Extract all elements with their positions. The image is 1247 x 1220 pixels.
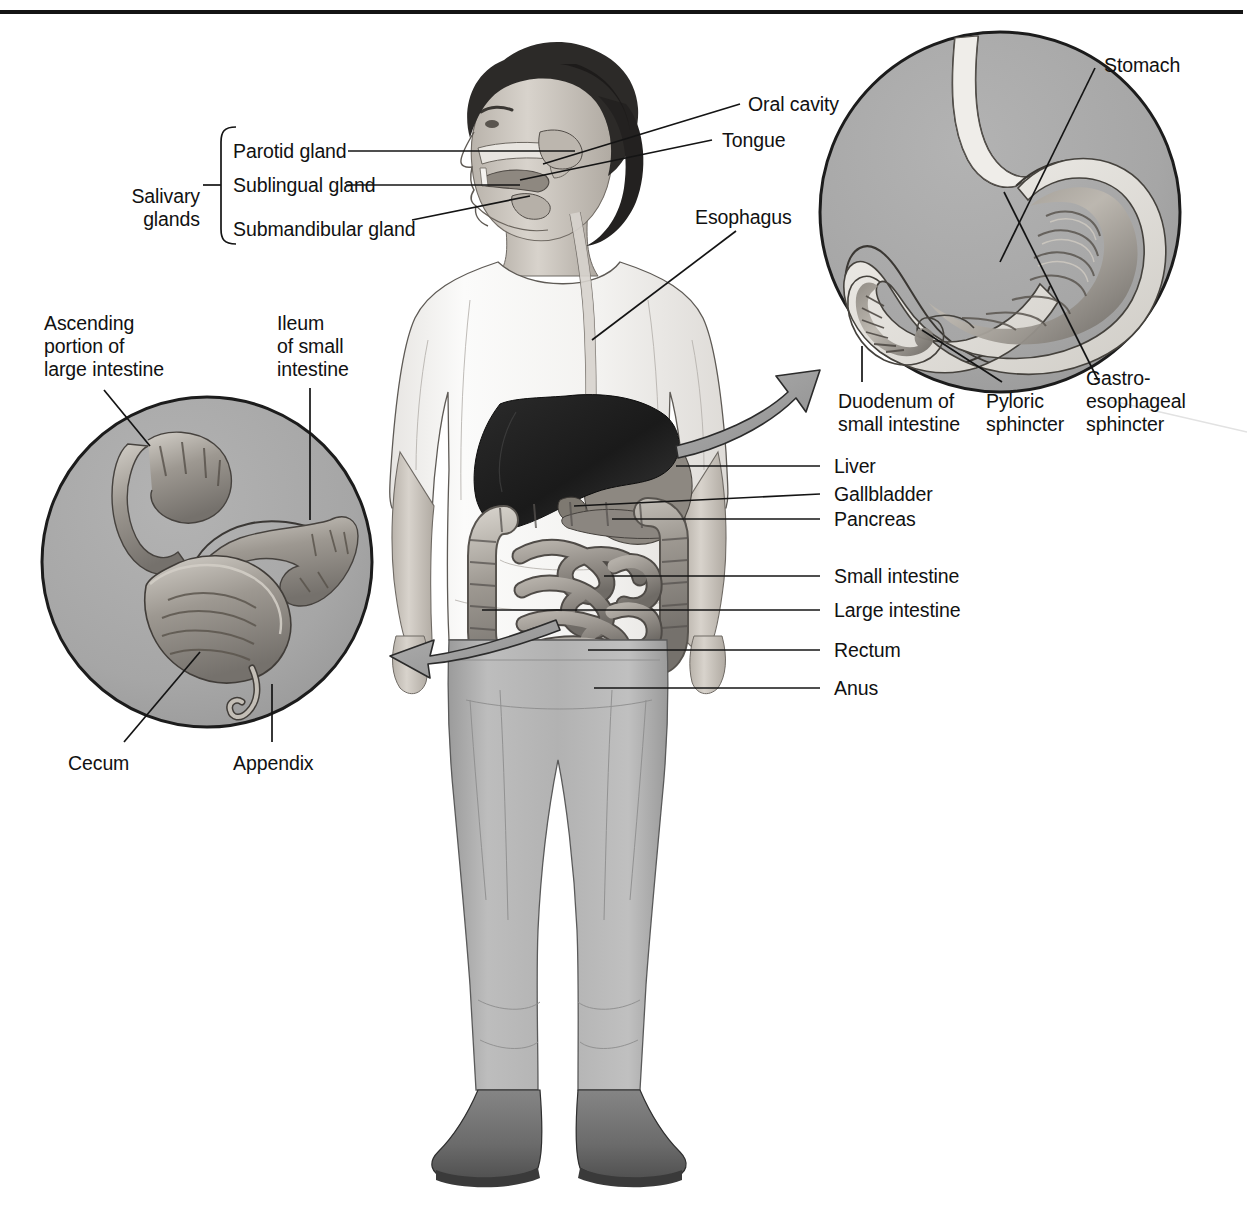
head [461,42,644,246]
label-gallbladder: Gallbladder [834,483,933,506]
label-pyloric-sphincter: Pyloric sphincter [986,390,1064,436]
label-anus: Anus [834,677,878,700]
figure-page: Salivary glands Parotid gland Sublingual… [0,0,1247,1220]
label-small-intestine: Small intestine [834,565,959,588]
cecum-detail-circle [42,397,372,727]
label-tongue: Tongue [722,129,785,152]
label-appendix: Appendix [233,752,314,775]
label-oral-cavity: Oral cavity [748,93,839,116]
label-cecum: Cecum [68,752,129,775]
label-submandibular-gland: Submandibular gland [233,218,415,241]
label-stomach: Stomach [1104,54,1180,77]
label-ileum: Ileum of small intestine [277,312,349,381]
label-parotid-gland: Parotid gland [233,140,347,163]
label-pancreas: Pancreas [834,508,916,531]
label-esophagus: Esophagus [695,206,792,229]
label-large-intestine: Large intestine [834,599,960,622]
label-sublingual-gland: Sublingual gland [233,174,376,197]
stomach-detail-circle [820,32,1180,392]
label-liver: Liver [834,455,876,478]
label-ascending-portion: Ascending portion of large intestine [44,312,164,381]
top-rule [0,10,1243,14]
label-duodenum: Duodenum of small intestine [838,390,960,436]
label-rectum: Rectum [834,639,901,662]
label-salivary-glands: Salivary glands [64,162,200,254]
label-gastroesophageal-sphincter: Gastro- esophageal sphincter [1086,367,1186,436]
